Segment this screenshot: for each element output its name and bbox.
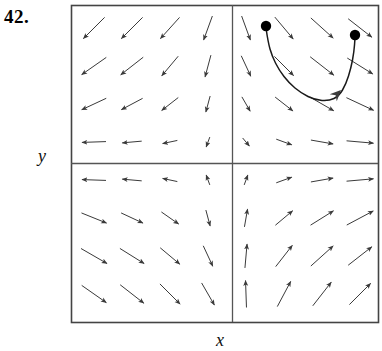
start-point	[261, 21, 271, 31]
end-point	[350, 30, 360, 40]
direction-field-figure: 42. y x	[0, 0, 382, 351]
direction-field-plot	[0, 0, 382, 351]
